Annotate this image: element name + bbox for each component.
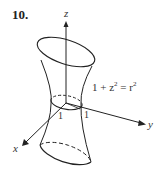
x-tick-label: 1 xyxy=(58,110,63,121)
x-axis xyxy=(26,103,66,142)
z-axis-label: z xyxy=(63,7,69,19)
left-profile xyxy=(40,60,51,145)
y-axis xyxy=(66,103,141,123)
y-arrowhead-icon xyxy=(138,120,146,126)
bottom-ellipse-front xyxy=(40,145,91,165)
y-tick-label: 1 xyxy=(84,109,89,120)
x-axis-label: x xyxy=(12,142,18,154)
hyperboloid-figure: 10. z y x 1 1 1 + z2 = r2 xyxy=(0,0,160,184)
bottom-ellipse-back xyxy=(40,142,91,162)
waist-ellipse-front xyxy=(51,101,82,110)
y-axis-label: y xyxy=(147,118,153,130)
equation: 1 + z2 = r2 xyxy=(92,80,137,93)
problem-number: 10. xyxy=(12,7,28,22)
z-arrowhead-icon xyxy=(64,21,69,27)
